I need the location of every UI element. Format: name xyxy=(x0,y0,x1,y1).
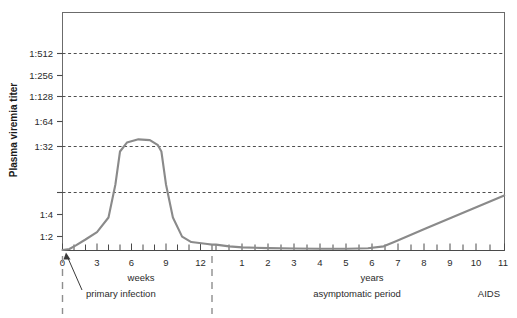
x-tick-label-year-6: 6 xyxy=(369,257,374,268)
y-tick-label-64: 1:64 xyxy=(35,116,54,127)
y-tick-label-128: 1:128 xyxy=(29,91,53,102)
x-tick-label-year-1: 1 xyxy=(239,257,244,268)
x-tick-label-year-11: 11 xyxy=(498,257,508,268)
x-tick-label-year-5: 5 xyxy=(343,257,348,268)
plot-frame xyxy=(63,13,505,251)
y-tick-label-512: 1:512 xyxy=(29,48,53,59)
y-tick-label-2: 1:2 xyxy=(40,231,53,242)
x-tick-label-year-7: 7 xyxy=(395,257,400,268)
y-tick-label-32: 1:32 xyxy=(35,141,54,152)
viremia-titer-figure: 1:512 1:256 1:128 1:64 1:32 1:4 1:2 Plas… xyxy=(0,0,517,318)
x-tick-label-week-9: 9 xyxy=(163,257,168,268)
x-tick-label-year-2: 2 xyxy=(265,257,270,268)
asymptomatic-period-label: asymptomatic period xyxy=(313,288,401,299)
x-tick-label-year-8: 8 xyxy=(421,257,426,268)
y-tick-label-4: 1:4 xyxy=(40,209,53,220)
x-tick-label-year-10: 10 xyxy=(471,257,482,268)
x-tick-label-year-9: 9 xyxy=(447,257,452,268)
x-tick-label-year-4: 4 xyxy=(317,257,322,268)
y-axis-title: Plasma viremia titer xyxy=(8,83,19,178)
x-tick-label-year-3: 3 xyxy=(291,257,296,268)
aids-label: AIDS xyxy=(478,288,500,299)
x-tick-label-week-6: 6 xyxy=(129,257,134,268)
y-tick-label-256: 1:256 xyxy=(29,70,53,81)
x-axis-unit-weeks: weeks xyxy=(127,272,155,283)
x-tick-label-week-3: 3 xyxy=(94,257,99,268)
x-tick-label-week-12: 12 xyxy=(195,257,206,268)
y-axis-ticks xyxy=(57,54,63,237)
primary-infection-arrow xyxy=(64,253,83,291)
x-axis-unit-years: years xyxy=(360,272,383,283)
primary-infection-label: primary infection xyxy=(86,288,156,299)
chart-canvas: 1:512 1:256 1:128 1:64 1:32 1:4 1:2 Plas… xyxy=(0,0,517,318)
